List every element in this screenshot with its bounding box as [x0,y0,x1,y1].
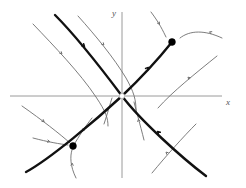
traj-lower-left-outer [22,106,70,143]
traj-upper-left-inner-arrow [102,43,104,45]
phase-portrait-figure: x y [0,0,246,188]
y-axis-label: y [111,8,116,18]
fixed-point-sink-upper-right [169,39,176,46]
x-axis-label: x [225,97,230,107]
stable-manifold-arrow [158,132,161,135]
unstable-manifold [26,42,172,172]
traj-lower-right-upper [158,56,217,108]
phase-portrait-svg: x y [0,0,246,188]
fixed-point-sink-lower-left [70,143,77,150]
traj-lower-left-inner [33,138,68,145]
fixed-point-saddle-origin [119,93,124,98]
traj-upper-left-outer [33,24,108,126]
traj-right-into-sink [180,32,222,38]
traj-upper-right-to-sink [151,12,166,37]
